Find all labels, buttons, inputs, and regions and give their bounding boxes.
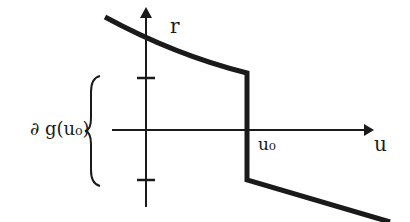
r-axis-arrowhead-icon bbox=[140, 7, 152, 18]
graph-curve bbox=[105, 17, 390, 222]
u-axis-label: u bbox=[374, 132, 387, 156]
r-axis-label: r bbox=[170, 14, 180, 38]
subdifferential-diagram bbox=[0, 0, 410, 222]
u0-label: u₀ bbox=[258, 134, 276, 154]
subdifferential-label: ∂ g(u₀) bbox=[30, 118, 89, 139]
u-axis-arrowhead-icon bbox=[364, 124, 374, 136]
